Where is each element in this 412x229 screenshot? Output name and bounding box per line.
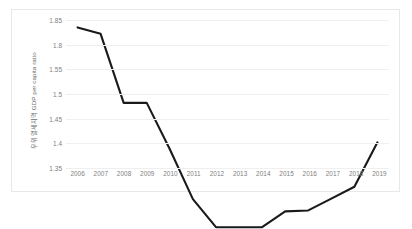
y-axis-tick-label: 1.45 — [49, 115, 62, 122]
x-axis-tick-label: 2016 — [303, 170, 317, 177]
x-axis-tick-label: 2019 — [372, 170, 386, 177]
y-axis-tick-label: 1.55 — [49, 66, 62, 73]
x-axis-tick-label: 2006 — [70, 170, 84, 177]
chart-card: 우위열세지역 GDP per capita ratio 1.851.81.551… — [11, 9, 400, 192]
gridline — [66, 119, 389, 120]
x-axis-tick-label: 2012 — [210, 170, 224, 177]
gridline — [66, 143, 389, 144]
chart-plot-area: 우위열세지역 GDP per capita ratio 1.851.81.551… — [12, 10, 399, 191]
y-axis-tick-label: 1.85 — [49, 17, 62, 24]
y-axis-tick-labels: 1.851.81.551.51.451.41.35 — [38, 20, 62, 168]
gridline — [66, 20, 389, 21]
x-axis-tick-label: 2018 — [349, 170, 363, 177]
x-axis-tick-label: 2013 — [233, 170, 247, 177]
x-axis-tick-label: 2010 — [163, 170, 177, 177]
gridline — [66, 45, 389, 46]
x-axis-tick-label: 2009 — [140, 170, 154, 177]
y-axis-tick-label: 1.35 — [49, 165, 62, 172]
x-axis-tick-label: 2007 — [94, 170, 108, 177]
gridline — [66, 69, 389, 70]
y-axis-tick-label: 1.4 — [53, 140, 62, 147]
gridline — [66, 168, 389, 169]
x-axis-tick-label: 2008 — [117, 170, 131, 177]
y-axis-tick-label: 1.5 — [53, 91, 62, 98]
y-axis-title-label: 우위열세지역 GDP per capita ratio — [29, 52, 38, 148]
x-axis-tick-label: 2015 — [279, 170, 293, 177]
x-axis-tick-label: 2011 — [187, 170, 201, 177]
x-axis-tick-label: 2017 — [326, 170, 340, 177]
x-axis-tick-label: 2014 — [256, 170, 270, 177]
x-axis-tick-labels: 2006200720082009201020112012201320142015… — [66, 170, 389, 184]
y-axis-tick-label: 1.8 — [53, 41, 62, 48]
gridline — [66, 94, 389, 95]
chart-gridlines-and-series — [66, 20, 389, 168]
